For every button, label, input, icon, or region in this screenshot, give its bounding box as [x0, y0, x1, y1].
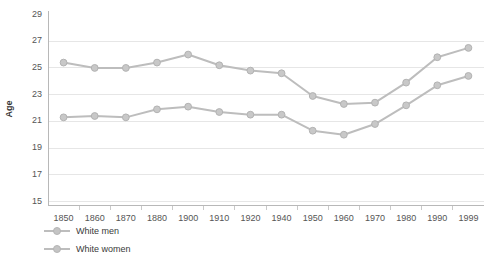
- y-tick-label: 21: [20, 115, 42, 125]
- data-point-marker: [465, 44, 472, 51]
- data-point-marker: [122, 65, 129, 72]
- data-point-marker: [91, 113, 98, 120]
- data-point-marker: [309, 93, 316, 100]
- series-line: [64, 48, 469, 104]
- data-point-marker: [216, 109, 223, 116]
- y-tick-label: 23: [20, 89, 42, 99]
- legend-item-label: White women: [76, 244, 131, 254]
- data-point-marker: [465, 73, 472, 80]
- data-point-marker: [154, 106, 161, 113]
- data-point-marker: [185, 51, 192, 58]
- data-point-marker: [154, 59, 161, 66]
- line-chart: Age 1517192123252729 1850186018701880190…: [0, 0, 494, 274]
- data-point-marker: [434, 54, 441, 61]
- axis-lines: [48, 11, 484, 210]
- data-point-marker: [278, 70, 285, 77]
- data-point-marker: [216, 62, 223, 69]
- data-point-marker: [403, 102, 410, 109]
- data-point-marker: [60, 114, 67, 121]
- data-point-marker: [340, 131, 347, 138]
- data-point-marker: [309, 127, 316, 134]
- legend-item[interactable]: White women: [44, 240, 131, 258]
- series-layer: [60, 44, 472, 138]
- legend-marker-icon: [44, 225, 70, 237]
- legend-item[interactable]: White men: [44, 222, 131, 240]
- y-tick-label: 15: [20, 196, 42, 206]
- legend-marker-icon: [44, 243, 70, 255]
- data-point-marker: [122, 114, 129, 121]
- data-point-marker: [372, 121, 379, 128]
- data-point-marker: [247, 111, 254, 118]
- data-point-marker: [278, 111, 285, 118]
- data-point-marker: [340, 101, 347, 108]
- y-tick-label: 19: [20, 142, 42, 152]
- y-tick-label: 29: [20, 9, 42, 19]
- gridlines: [48, 41, 484, 201]
- y-tick-label: 27: [20, 35, 42, 45]
- data-point-marker: [372, 99, 379, 106]
- chart-legend: White menWhite women: [44, 222, 131, 258]
- data-point-marker: [247, 67, 254, 74]
- data-point-marker: [434, 82, 441, 89]
- data-point-marker: [403, 79, 410, 86]
- x-tick-label: 1999: [448, 213, 488, 223]
- y-tick-label: 25: [20, 62, 42, 72]
- data-point-marker: [60, 59, 67, 66]
- y-tick-label: 17: [20, 169, 42, 179]
- data-point-marker: [185, 103, 192, 110]
- legend-item-label: White men: [76, 226, 119, 236]
- data-point-marker: [91, 65, 98, 72]
